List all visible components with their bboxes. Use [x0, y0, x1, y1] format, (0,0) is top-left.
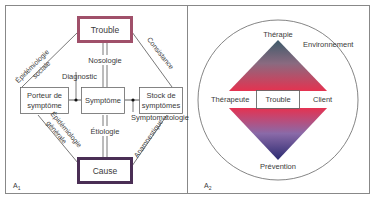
junction-dot-right	[131, 98, 134, 101]
diagram-canvas: Trouble Nosologie Diagnostic Épidémiolog…	[0, 0, 374, 200]
node-cause-label: Cause	[93, 166, 118, 176]
junction-dot-left	[74, 98, 77, 101]
node-porteur-label-2: symptôme	[27, 101, 62, 110]
edge-label-consistance: Consistance	[146, 36, 175, 71]
node-porteur-label-1: Porteur de	[27, 91, 62, 100]
edge-label-etiologie: Étiologie	[91, 127, 120, 136]
node-trouble-label: Trouble	[91, 25, 120, 35]
node-stock-label-2: symptômes	[142, 101, 181, 110]
edge-label-anamnestique: Anamnestique	[133, 118, 165, 159]
label-therapeute: Thérapeute	[211, 95, 249, 104]
prevention-triangle	[228, 107, 328, 160]
node-symptome-label: Symptôme	[85, 96, 121, 105]
panel-a1-label: A1	[13, 182, 21, 191]
label-prevention: Prévention	[260, 162, 296, 171]
label-environnement: Environnement	[303, 40, 354, 49]
node-stock-label-1: Stock de	[146, 91, 175, 100]
panel-a2: Thérapie Environnement Thérapeute Troubl…	[198, 20, 358, 191]
label-trouble-center: Trouble	[265, 95, 290, 104]
edge-label-nosologie: Nosologie	[88, 56, 121, 65]
panel-a2-label: A2	[204, 182, 212, 191]
panel-a1: Trouble Nosologie Diagnostic Épidémiolog…	[13, 18, 189, 191]
edge-label-diagnostic: Diagnostic	[62, 72, 97, 81]
label-client: Client	[313, 95, 333, 104]
label-therapie: Thérapie	[263, 30, 293, 39]
